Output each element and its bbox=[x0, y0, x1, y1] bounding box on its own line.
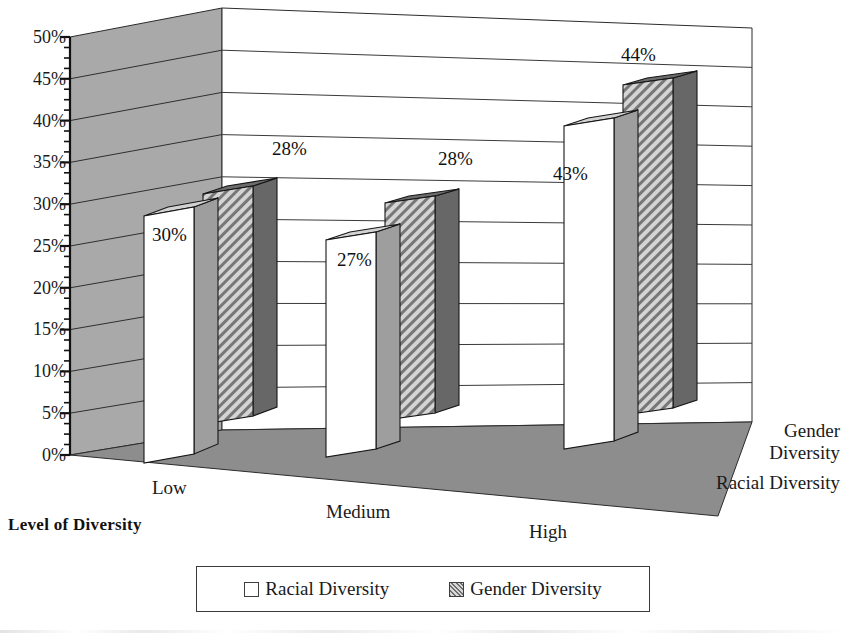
y-tick-label: 5% bbox=[4, 404, 66, 422]
legend-swatch-icon-gender bbox=[449, 582, 464, 597]
category-label-low: Low bbox=[152, 477, 187, 499]
chart-root: 50% 45% 40% 35% 30% 25% 20% 15% 10% 5% 0… bbox=[0, 0, 841, 635]
data-label-medium-racial: 27% bbox=[337, 249, 372, 271]
y-tick-label: 25% bbox=[4, 237, 66, 255]
chart-3d-scene bbox=[0, 0, 841, 545]
legend-swatch-icon-racial bbox=[244, 582, 259, 597]
y-tick-label: 15% bbox=[4, 320, 66, 338]
y-tick-label: 40% bbox=[4, 112, 66, 130]
y-tick-label: 20% bbox=[4, 279, 66, 297]
scan-artifact bbox=[0, 630, 841, 633]
chart-plot-area: 50% 45% 40% 35% 30% 25% 20% 15% 10% 5% 0… bbox=[0, 0, 841, 545]
data-label-high-gender: 44% bbox=[621, 44, 656, 66]
depth-axis-label-gender-line1: Gender bbox=[784, 420, 840, 441]
depth-axis-label-gender-line2: Diversity bbox=[769, 442, 840, 463]
chart-legend: Racial Diversity Gender Diversity bbox=[196, 566, 650, 612]
y-tick-label: 0% bbox=[4, 446, 66, 464]
data-label-high-racial: 43% bbox=[553, 163, 588, 185]
y-tick-label: 45% bbox=[4, 70, 66, 88]
y-axis-tick-labels: 50% 45% 40% 35% 30% 25% 20% 15% 10% 5% 0… bbox=[0, 0, 66, 545]
legend-item-gender-diversity[interactable]: Gender Diversity bbox=[449, 578, 601, 600]
data-label-medium-gender: 28% bbox=[438, 148, 473, 170]
depth-axis-label-gender: Gender Diversity bbox=[730, 420, 840, 464]
bar-high-racial bbox=[564, 110, 638, 449]
category-label-medium: Medium bbox=[326, 501, 390, 523]
legend-item-racial-diversity[interactable]: Racial Diversity bbox=[244, 578, 389, 600]
category-label-high: High bbox=[529, 521, 567, 543]
legend-label-racial: Racial Diversity bbox=[265, 578, 389, 600]
y-tick-label: 35% bbox=[4, 153, 66, 171]
y-tick-label: 50% bbox=[4, 28, 66, 46]
y-tick-label: 10% bbox=[4, 362, 66, 380]
y-tick-label: 30% bbox=[4, 195, 66, 213]
data-label-low-gender: 28% bbox=[272, 138, 307, 160]
x-axis-title: Level of Diversity bbox=[8, 515, 142, 535]
data-label-low-racial: 30% bbox=[152, 224, 187, 246]
depth-axis-label-racial: Racial Diversity bbox=[672, 472, 840, 494]
legend-label-gender: Gender Diversity bbox=[470, 578, 601, 600]
